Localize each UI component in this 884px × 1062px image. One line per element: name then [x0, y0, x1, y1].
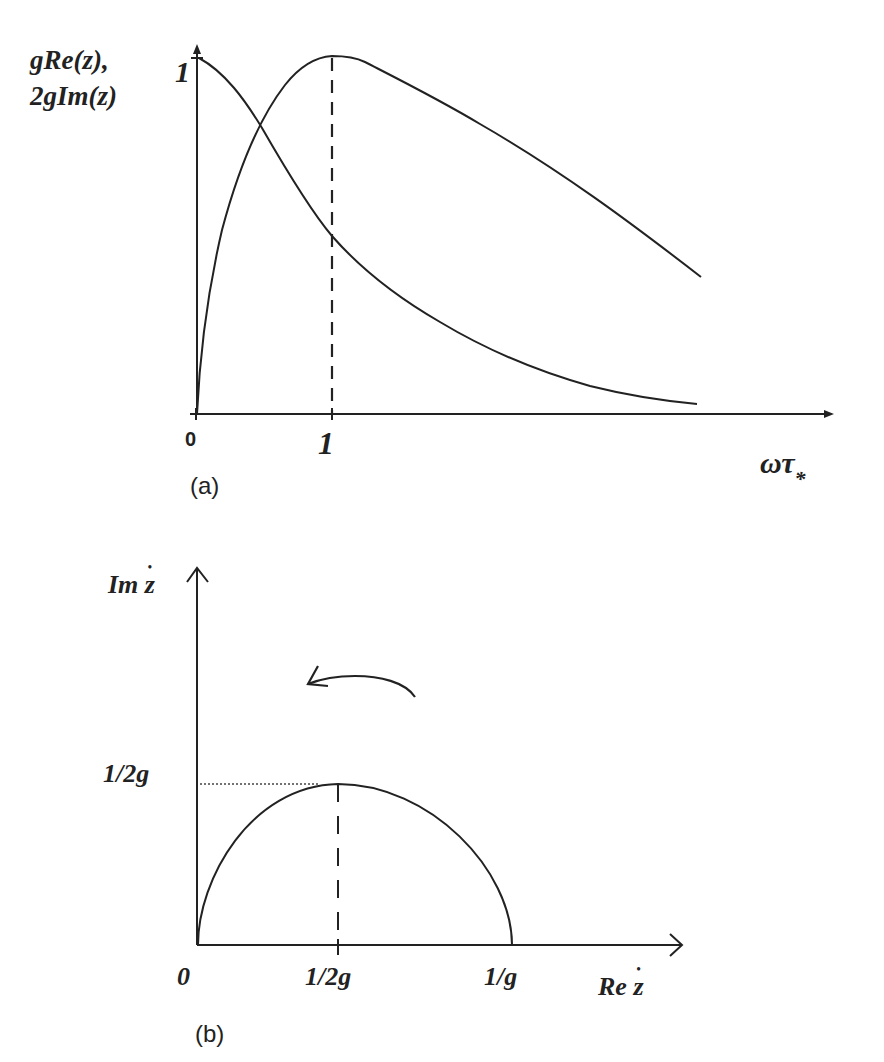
- y-axis-label-a: gRe(z), 2gIm(z): [30, 42, 117, 114]
- omega-tau-label: ωτ: [760, 446, 795, 479]
- im-label: Im: [108, 570, 145, 599]
- panel-a-axes: [190, 44, 834, 420]
- curve-2gIm: [197, 56, 701, 414]
- x-tick-label-half-g: 1/2g: [305, 962, 351, 992]
- curve-gRe: [199, 58, 697, 404]
- caption-a: (a): [190, 472, 219, 500]
- y-axis-arrow-icon: [193, 44, 201, 54]
- panel-b-axes: [187, 568, 682, 956]
- y-tick-label-1: 1: [175, 55, 190, 89]
- y-axis-label-b: Im z: [108, 570, 155, 600]
- figure-canvas: [0, 0, 884, 1062]
- z-dot-label-x: z: [633, 972, 643, 1001]
- x-tick-label-1: 1: [318, 425, 334, 462]
- z-dot-label: z: [145, 570, 155, 599]
- x-axis-label-a: ωτ*: [760, 446, 806, 486]
- x-tick-label-one-g: 1/g: [484, 962, 517, 992]
- x-tick-label-0: 0: [185, 428, 196, 451]
- y-label-line2: 2gIm(z): [30, 78, 117, 114]
- star-subscript: *: [795, 466, 806, 491]
- x-tick-label-0-b: 0: [177, 962, 190, 992]
- x-axis-label-b: Re z: [598, 972, 644, 1002]
- y-label-line1: gRe(z),: [30, 42, 117, 78]
- caption-b: (b): [195, 1020, 224, 1048]
- y-tick-label-half-g: 1/2g: [103, 759, 149, 789]
- x-axis-arrow-icon: [824, 410, 834, 418]
- semicircle-arc: [198, 784, 512, 945]
- re-label: Re: [598, 972, 633, 1001]
